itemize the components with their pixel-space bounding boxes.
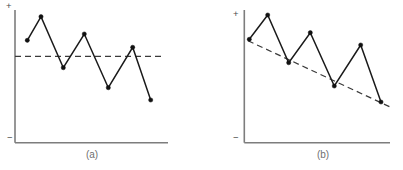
data-point-marker [359, 43, 363, 47]
data-point-marker [61, 66, 65, 70]
data-point-marker [332, 84, 336, 88]
axis-minus-label-a: − [7, 132, 13, 143]
data-markers-a [25, 15, 153, 103]
series-line-b [249, 15, 381, 102]
series-line-a [27, 17, 150, 100]
chart-panel-b: + − (b) [233, 8, 393, 160]
data-point-marker [39, 15, 43, 19]
axis-plus-label-a: + [6, 0, 12, 11]
two-panel-trend-figure: + − (a) + − (b) [0, 0, 403, 170]
data-point-marker [308, 31, 312, 35]
data-point-marker [266, 13, 270, 17]
panel-caption-b: (b) [317, 149, 329, 160]
data-point-marker [247, 37, 251, 41]
data-point-marker [131, 45, 135, 49]
panel-caption-a: (a) [86, 149, 98, 160]
data-point-marker [287, 61, 291, 65]
axis-minus-label-b: − [233, 132, 239, 143]
data-markers-b [247, 13, 383, 104]
chart-panel-a: + − (a) [6, 0, 168, 160]
data-point-marker [106, 86, 110, 90]
data-point-marker [25, 38, 29, 42]
figure-container: + − (a) + − (b) [0, 0, 403, 170]
data-point-marker [379, 100, 383, 104]
axis-plus-label-b: + [233, 8, 239, 19]
data-point-marker [82, 32, 86, 36]
data-point-marker [149, 98, 153, 102]
